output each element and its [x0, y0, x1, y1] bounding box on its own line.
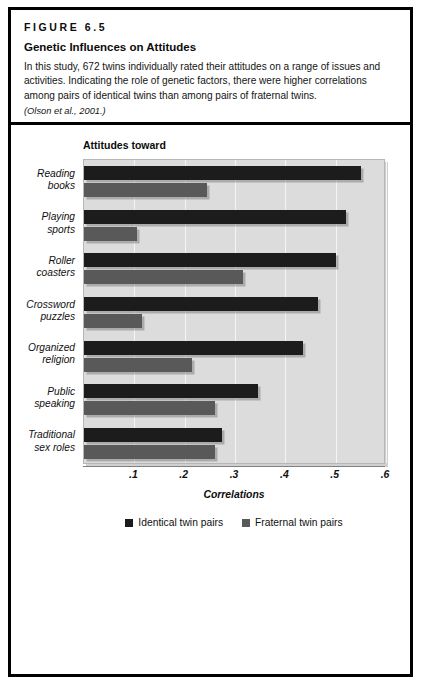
y-label-line: religion	[7, 354, 75, 366]
bar-group-5	[84, 358, 386, 372]
gridline-p2	[185, 160, 186, 463]
bar-group-4	[84, 297, 386, 311]
bar-identical-1[interactable]	[84, 166, 361, 180]
x-tick-p4: .4	[280, 469, 289, 480]
bar-identical-4[interactable]	[84, 297, 318, 311]
gridline-p1	[134, 160, 135, 463]
bar-identical-2[interactable]	[84, 210, 346, 224]
gridline-p3	[235, 160, 236, 463]
bar-fraternal-4[interactable]	[84, 314, 142, 328]
y-label-3: Rollercoasters	[7, 255, 75, 280]
y-label-line: Roller	[7, 255, 75, 267]
y-label-1: Readingbooks	[7, 168, 75, 193]
figure-number: FIGURE 6.5	[24, 21, 397, 33]
figure-description: In this study, 672 twins individually ra…	[24, 60, 397, 103]
bar-group-6	[84, 384, 386, 398]
bar-group-1	[84, 166, 386, 180]
chart-legend: Identical twin pairsFraternal twin pairs	[83, 517, 385, 528]
bar-fraternal-2[interactable]	[84, 227, 137, 241]
y-label-5: Organizedreligion	[7, 342, 75, 367]
bar-group-7	[84, 428, 386, 442]
bar-group-2	[84, 210, 386, 224]
figure-panel: FIGURE 6.5 Genetic Influences on Attitud…	[8, 7, 413, 677]
y-label-2: Playingsports	[7, 211, 75, 236]
bar-fraternal-1[interactable]	[84, 183, 207, 197]
y-label-6: Publicspeaking	[7, 386, 75, 411]
legend-swatch-icon	[125, 519, 133, 527]
y-label-line: sex roles	[7, 442, 75, 454]
y-label-7: Traditionalsex roles	[7, 429, 75, 454]
bar-group-3	[84, 253, 386, 267]
figure-title: Genetic Influences on Attitudes	[24, 41, 397, 53]
y-label-line: Crossword	[7, 299, 75, 311]
chart-heading: Attitudes toward	[83, 139, 166, 151]
legend-swatch-icon	[242, 519, 250, 527]
bar-group-2	[84, 227, 386, 241]
x-axis-line	[83, 466, 385, 467]
bar-identical-7[interactable]	[84, 428, 222, 442]
gridline-p4	[285, 160, 286, 463]
bar-group-7	[84, 445, 386, 459]
legend-label: Fraternal twin pairs	[255, 517, 343, 528]
figure-caption-block: FIGURE 6.5 Genetic Influences on Attitud…	[11, 10, 410, 125]
y-label-line: Public	[7, 386, 75, 398]
gridline-p5	[336, 160, 337, 463]
bar-fraternal-3[interactable]	[84, 270, 243, 284]
y-label-line: books	[7, 180, 75, 192]
bar-group-3	[84, 270, 386, 284]
y-label-4: Crosswordpuzzles	[7, 299, 75, 324]
y-label-line: Reading	[7, 168, 75, 180]
legend-item-1[interactable]: Identical twin pairs	[125, 517, 223, 528]
y-label-line: puzzles	[7, 311, 75, 323]
y-label-line: Organized	[7, 342, 75, 354]
x-tick-p3: .3	[230, 469, 239, 480]
bar-fraternal-5[interactable]	[84, 358, 192, 372]
bar-identical-6[interactable]	[84, 384, 258, 398]
figure-citation: (Olson et al., 2001.)	[24, 106, 397, 116]
y-label-line: speaking	[7, 398, 75, 410]
legend-item-2[interactable]: Fraternal twin pairs	[242, 517, 343, 528]
gridline-p6	[386, 160, 387, 463]
x-tick-p2: .2	[179, 469, 188, 480]
chart-region: Attitudes toward ReadingbooksPlayingspor…	[11, 125, 410, 674]
x-tick-p5: .5	[330, 469, 339, 480]
y-axis-category-labels: ReadingbooksPlayingsportsRollercoastersC…	[11, 159, 79, 464]
bar-identical-5[interactable]	[84, 341, 303, 355]
x-axis-title: Correlations	[83, 489, 385, 500]
bar-fraternal-7[interactable]	[84, 445, 215, 459]
bar-group-5	[84, 341, 386, 355]
legend-label: Identical twin pairs	[138, 517, 223, 528]
bar-fraternal-6[interactable]	[84, 401, 215, 415]
y-label-line: sports	[7, 224, 75, 236]
x-tick-p6: .6	[381, 469, 390, 480]
bar-group-4	[84, 314, 386, 328]
plot-area	[83, 159, 385, 464]
y-label-line: Traditional	[7, 429, 75, 441]
bar-group-1	[84, 183, 386, 197]
bar-group-6	[84, 401, 386, 415]
y-label-line: coasters	[7, 267, 75, 279]
y-label-line: Playing	[7, 211, 75, 223]
bar-identical-3[interactable]	[84, 253, 336, 267]
x-tick-p1: .1	[129, 469, 138, 480]
